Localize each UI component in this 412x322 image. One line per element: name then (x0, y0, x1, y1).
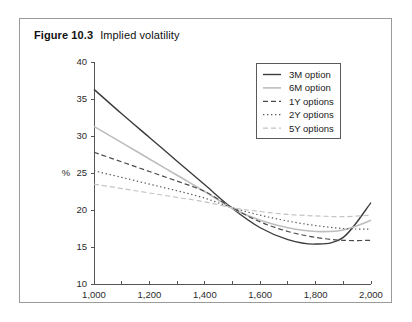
x-axis-ticks (94, 281, 371, 285)
y-axis-tick-labels: 10152025303540 (76, 56, 87, 289)
x-tick-label: 1,400 (193, 289, 217, 300)
legend-label-4: 2Y options (289, 109, 334, 120)
x-tick-label: 1,200 (138, 289, 162, 300)
y-tick-label: 25 (76, 167, 87, 178)
legend-label-2: 6M option (289, 82, 331, 93)
legend-label-1: 3M option (289, 69, 331, 80)
series-line-2 (94, 126, 371, 231)
y-axis-label: % (62, 167, 71, 178)
y-tick-label: 10 (76, 278, 87, 289)
y-axis-ticks (91, 62, 95, 284)
chart-legend: 3M option6M option1Y options2Y options5Y… (256, 63, 340, 138)
x-tick-label: 1,800 (304, 289, 328, 300)
x-tick-label: 2,000 (359, 289, 383, 300)
x-tick-label: 1,600 (248, 289, 272, 300)
figure-card: Figure 10.3Implied volatility 1015202530… (19, 18, 392, 303)
x-axis-tick-labels: 1,0001,2001,4001,6001,8002,000 (82, 289, 383, 300)
series-line-5 (94, 184, 371, 217)
legend-label-5: 5Y options (289, 123, 334, 134)
legend-label-3: 1Y options (289, 96, 334, 107)
y-tick-label: 20 (76, 204, 87, 215)
x-tick-label: 1,000 (82, 289, 106, 300)
y-tick-label: 40 (76, 56, 87, 67)
y-tick-label: 15 (76, 241, 87, 252)
series-line-3 (94, 152, 371, 240)
y-tick-label: 35 (76, 93, 87, 104)
y-tick-label: 30 (76, 130, 87, 141)
series-line-4 (94, 171, 371, 229)
implied-volatility-chart: 10152025303540 1,0001,2001,4001,6001,800… (20, 19, 393, 304)
